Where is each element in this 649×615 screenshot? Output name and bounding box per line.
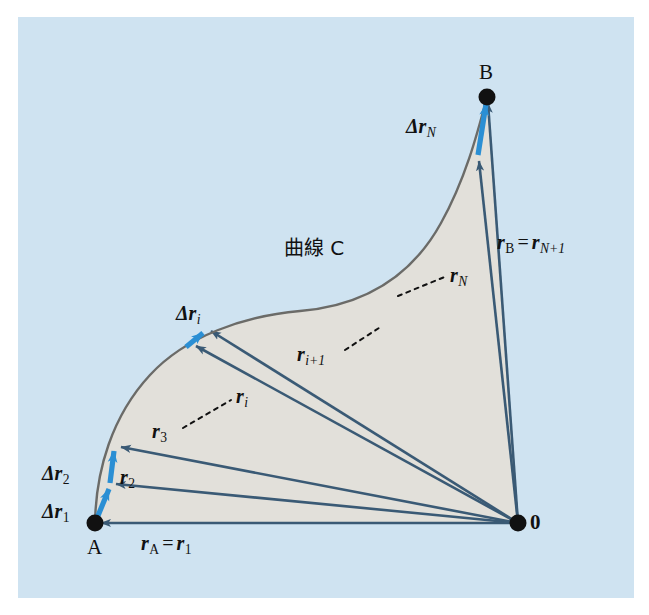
label-vector-r3: r3 bbox=[152, 421, 167, 444]
delta-symbol: Δ bbox=[42, 500, 55, 522]
equals-symbol: = bbox=[159, 532, 176, 554]
label-vector-rB: rB=rN+1 bbox=[497, 232, 565, 255]
subscript-N: N bbox=[458, 274, 468, 289]
r-symbol: r bbox=[120, 466, 128, 488]
r-symbol: r bbox=[141, 532, 149, 554]
label-increment-dr1: Δr1 bbox=[42, 501, 70, 524]
label-point-B: B bbox=[479, 62, 493, 83]
subscript-1: 1 bbox=[62, 510, 69, 525]
subscript-2: 2 bbox=[62, 472, 69, 487]
point-dot-A bbox=[87, 515, 104, 532]
label-origin: 0 bbox=[530, 512, 541, 533]
delta-symbol: Δ bbox=[42, 462, 55, 484]
label-point-A: A bbox=[87, 537, 102, 558]
label-point-A-text: A bbox=[87, 535, 102, 559]
subscript-A: A bbox=[149, 542, 159, 557]
label-vector-ri-plus-1: ri+1 bbox=[297, 344, 325, 367]
label-vector-ri: ri bbox=[236, 386, 248, 409]
r-symbol: r bbox=[152, 420, 160, 442]
subscript-N-plus-1: N+1 bbox=[539, 241, 565, 256]
r-symbol: r bbox=[297, 343, 305, 365]
equals-symbol: = bbox=[514, 231, 531, 253]
subscript-N: N bbox=[426, 125, 436, 140]
delta-symbol: Δ bbox=[176, 302, 189, 324]
subscript-i: i bbox=[244, 395, 248, 410]
label-curve-name: 曲線 C bbox=[284, 238, 344, 258]
figure-root: B A 0 曲線 C ΔrN Δri Δr2 Δr1 rB=rN+1 rN ri… bbox=[0, 0, 649, 615]
label-point-B-text: B bbox=[479, 60, 493, 84]
subscript-i: i bbox=[196, 312, 200, 327]
subscript-B: B bbox=[505, 241, 515, 256]
subscript-1: 1 bbox=[184, 542, 191, 557]
label-increment-drN: ΔrN bbox=[406, 116, 436, 139]
subscript-2: 2 bbox=[128, 476, 135, 491]
subscript-3: 3 bbox=[160, 430, 167, 445]
r-symbol: r bbox=[450, 264, 458, 286]
diagram-canvas bbox=[0, 0, 649, 615]
label-vector-rN: rN bbox=[450, 265, 467, 288]
subscript-i-plus-1: i+1 bbox=[305, 353, 325, 368]
label-increment-dri: Δri bbox=[176, 303, 201, 326]
label-vector-r2: r2 bbox=[120, 467, 135, 490]
label-vector-rA: rA=r1 bbox=[141, 533, 192, 556]
label-origin-text: 0 bbox=[530, 510, 541, 534]
point-dot-B bbox=[479, 89, 496, 106]
point-dot-origin bbox=[510, 515, 527, 532]
r-symbol: r bbox=[497, 231, 505, 253]
label-increment-dr2: Δr2 bbox=[42, 463, 70, 486]
delta-symbol: Δ bbox=[406, 115, 419, 137]
label-curve-name-text: 曲線 C bbox=[284, 236, 344, 260]
r-symbol: r bbox=[236, 385, 244, 407]
